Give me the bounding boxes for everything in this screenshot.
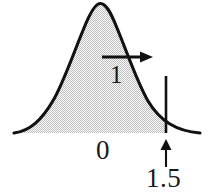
shift-arrow-label: 1 bbox=[110, 62, 123, 87]
cutoff-pointer-head bbox=[161, 139, 172, 150]
shift-arrow-head bbox=[140, 52, 153, 63]
mean-tick-label: 0 bbox=[96, 137, 110, 164]
shaded-region bbox=[14, 3, 200, 133]
cutoff-tick-label: 1.5 bbox=[146, 165, 181, 192]
bell-curve-figure: 1 0 1.5 bbox=[0, 0, 209, 194]
